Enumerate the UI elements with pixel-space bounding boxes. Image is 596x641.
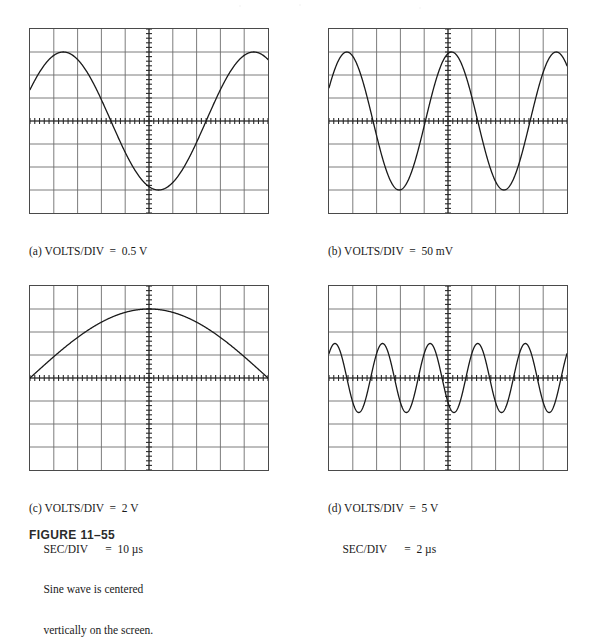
oscilloscope-screen-b[interactable] (328, 28, 568, 214)
scope-panel-d: (d) VOLTS/DIV = 5 V SEC/DIV = 2 µs (328, 285, 568, 583)
scope-wrap-b (328, 28, 568, 214)
caption-line: SEC/DIV = 10 µs (29, 543, 269, 557)
scope-wrap-a (29, 28, 269, 214)
panel-caption-c: (c) VOLTS/DIV = 2 V SEC/DIV = 10 µs Sine… (29, 475, 269, 641)
caption-line: (c) VOLTS/DIV = 2 V (29, 502, 269, 516)
figure-label: FIGURE 11–55 (29, 528, 115, 542)
scope-panel-a: (a) VOLTS/DIV = 0.5 V SEC/DIV = 2 ms (29, 28, 269, 326)
scope-wrap-c (29, 285, 269, 471)
caption-line: (d) VOLTS/DIV = 5 V (328, 502, 568, 516)
scope-panel-c: (c) VOLTS/DIV = 2 V SEC/DIV = 10 µs Sine… (29, 285, 269, 641)
caption-line: (b) VOLTS/DIV = 50 mV (328, 245, 568, 259)
caption-line: Sine wave is centered (29, 583, 269, 597)
caption-line: vertically on the screen. (29, 624, 269, 638)
oscilloscope-screen-d[interactable] (328, 285, 568, 471)
caption-line: SEC/DIV = 2 µs (328, 543, 568, 557)
scope-graticule (329, 29, 567, 213)
oscilloscope-screen-a[interactable] (29, 28, 269, 214)
panel-caption-d: (d) VOLTS/DIV = 5 V SEC/DIV = 2 µs (328, 475, 568, 583)
scope-wrap-d (328, 285, 568, 471)
scope-graticule (30, 29, 268, 213)
scope-panel-b: (b) VOLTS/DIV = 50 mV SEC/DIV = 0.1 ms (328, 28, 568, 326)
oscilloscope-screen-c[interactable] (29, 285, 269, 471)
scope-graticule (30, 286, 268, 470)
scope-graticule (329, 286, 567, 470)
scan-artifact (0, 0, 596, 16)
caption-line: (a) VOLTS/DIV = 0.5 V (29, 245, 269, 259)
